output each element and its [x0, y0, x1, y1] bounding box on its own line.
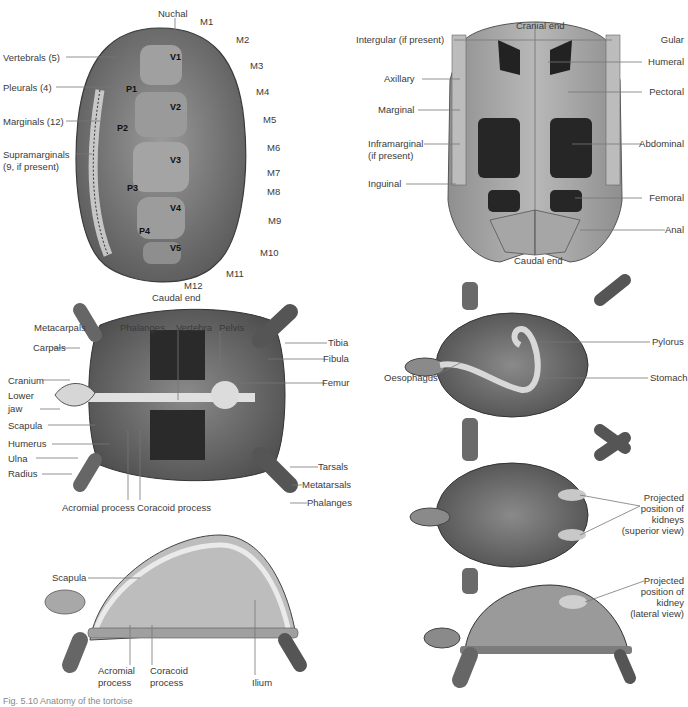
label-kidney: kidney [630, 597, 684, 608]
label-m11: M11 [226, 268, 244, 279]
label-v3: V3 [170, 155, 181, 165]
label-m2: M2 [236, 34, 249, 45]
kidney-lateral-illustration [424, 585, 632, 680]
label-projected: Projected [622, 492, 684, 503]
label-anal: Anal [665, 224, 684, 235]
label-axillary: Axillary [384, 73, 415, 84]
label-tarsals: Tarsals [318, 461, 348, 472]
label-v4: V4 [170, 203, 181, 213]
label-oesophagus: Oesophagus [384, 372, 438, 383]
label-m4: M4 [256, 86, 269, 97]
label-caudal-end-plastron: Caudal end [514, 255, 563, 266]
label-m12: M12 [184, 280, 202, 291]
label-metacarpals: Metacarpals [34, 322, 86, 333]
label-supramarginals-note: (9, if present) [3, 161, 59, 172]
label-position-of-lateral: position of [630, 586, 684, 597]
label-jaw: jaw [8, 403, 22, 414]
label-m9: M9 [268, 215, 281, 226]
label-humerus: Humerus [8, 438, 47, 449]
label-femur: Femur [322, 377, 349, 388]
label-inframarginal-note: (if present) [368, 150, 413, 161]
label-radius: Radius [8, 468, 38, 479]
label-v1: V1 [170, 52, 181, 62]
label-carpals: Carpals [33, 342, 66, 353]
label-acromial-process-lateral: process [98, 677, 131, 688]
plastron-illustration [448, 22, 622, 262]
label-v5: V5 [170, 243, 181, 253]
label-m8: M8 [267, 186, 280, 197]
label-lower: Lower [8, 390, 34, 401]
label-phalanges-hind: Phalanges [307, 497, 352, 508]
label-lateral-view: (lateral view) [630, 608, 684, 619]
label-marginals: Marginals (12) [3, 116, 64, 127]
label-nuchal: Nuchal [158, 8, 188, 19]
label-p3: P3 [127, 183, 138, 193]
label-phalanges-fore: Phalanges [120, 322, 165, 333]
carapace-illustration [76, 28, 246, 282]
label-pelvis: Pelvis [219, 322, 244, 333]
label-abdominal: Abdominal [639, 138, 684, 149]
label-m6: M6 [267, 142, 280, 153]
label-pleurals: Pleurals (4) [3, 82, 52, 93]
label-p2: P2 [117, 123, 128, 133]
label-acromial-process-ventral: Acromial process [62, 502, 135, 513]
label-supramarginals: Supramarginals [3, 149, 70, 160]
label-vertebra: Vertebra [176, 322, 212, 333]
label-marginal: Marginal [378, 104, 414, 115]
lateral-skeleton-illustration [45, 535, 300, 665]
ventral-skeleton-illustration [55, 309, 290, 485]
label-caudal-end-carapace: Caudal end [152, 292, 201, 303]
label-v2: V2 [170, 102, 181, 112]
label-coracoid-process-ventral: Coracoid process [137, 502, 211, 513]
label-cranial-end: Cranial end [516, 20, 565, 31]
label-humeral: Humeral [648, 56, 684, 67]
label-inguinal: Inguinal [368, 178, 401, 189]
label-inframarginal: Inframarginal [368, 138, 423, 149]
digestive-illustration [405, 280, 625, 448]
label-scapula-ventral: Scapula [8, 420, 42, 431]
label-metatarsals: Metatarsals [302, 479, 351, 490]
label-m10: M10 [260, 247, 278, 258]
label-cranium: Cranium [8, 375, 44, 386]
label-femoral: Femoral [649, 192, 684, 203]
label-p4: P4 [139, 226, 150, 236]
label-ulna: Ulna [8, 453, 28, 464]
label-m7: M7 [267, 167, 280, 178]
label-m3: M3 [250, 60, 263, 71]
figure-caption: Fig. 5.10 Anatomy of the tortoise [3, 696, 133, 707]
label-superior-view: (superior view) [622, 525, 684, 536]
label-projected-lateral: Projected [630, 575, 684, 586]
kidney-superior-illustration [410, 435, 625, 594]
label-scapula-lateral: Scapula [52, 572, 86, 583]
label-pectoral: Pectoral [649, 86, 684, 97]
label-kidneys: kidneys [622, 514, 684, 525]
label-coracoid-lateral: Coracoid [150, 665, 188, 676]
label-coracoid-process-lateral: process [150, 677, 183, 688]
label-m1: M1 [200, 16, 213, 27]
label-m5: M5 [263, 114, 276, 125]
label-stomach: Stomach [650, 372, 688, 383]
kidney-lateral-panel: Projected position of kidney (lateral vi… [630, 575, 684, 619]
label-position-of: position of [622, 503, 684, 514]
label-pylorus: Pylorus [652, 336, 684, 347]
label-intergular: Intergular (if present) [356, 34, 444, 45]
label-p1: P1 [126, 84, 137, 94]
label-tibia: Tibia [328, 337, 348, 348]
label-fibula: Fibula [323, 353, 349, 364]
label-acromial-lateral: Acromial [98, 665, 135, 676]
label-ilium: Ilium [252, 677, 272, 688]
label-vertebrals: Vertebrals (5) [3, 52, 60, 63]
kidney-superior-panel: Projected position of kidneys (superior … [622, 492, 684, 536]
label-gular: Gular [661, 34, 684, 45]
